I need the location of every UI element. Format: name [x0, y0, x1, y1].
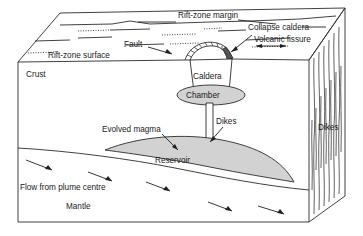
label-flow-from-plume-centre: Flow from plume centre — [20, 183, 106, 192]
diagram-canvas: Rift-zone margin Collapse caldera Volcan… — [0, 0, 363, 236]
flow-arrow — [208, 202, 232, 211]
label-collapse-caldera: Collapse caldera — [248, 23, 309, 32]
side-dike-swarm — [312, 27, 342, 214]
label-crust: Crust — [26, 70, 46, 79]
label-rift-zone-surface: Rift-zone surface — [48, 51, 110, 60]
rift-zone-block-diagram: Rift-zone margin Collapse caldera Volcan… — [0, 0, 363, 236]
label-caldera: Caldera — [193, 72, 222, 81]
label-evolved-magma: Evolved magma — [102, 125, 161, 134]
label-dikes-right: Dikes — [318, 123, 338, 132]
label-volcanic-fissure: Volcanic fissure — [254, 35, 311, 44]
fault-leader — [148, 47, 172, 54]
label-fault: Fault — [124, 40, 143, 49]
label-dikes-centre: Dikes — [216, 117, 236, 126]
label-rift-zone-margin: Rift-zone margin — [178, 11, 239, 20]
magma-reservoir — [105, 136, 294, 182]
label-chamber: Chamber — [186, 91, 220, 100]
collapse-caldera-vent — [223, 47, 233, 59]
label-mantle: Mantle — [66, 202, 91, 211]
label-reservoir: Reservoir — [155, 156, 190, 165]
flow-arrow — [88, 172, 112, 181]
flow-arrow — [26, 160, 52, 170]
volcanic-fissure-leader — [256, 44, 286, 48]
flow-arrow — [146, 182, 170, 191]
flow-arrow — [258, 206, 284, 214]
collapse-caldera-leader — [231, 35, 252, 52]
